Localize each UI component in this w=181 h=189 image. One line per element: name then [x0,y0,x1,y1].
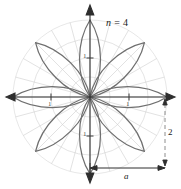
tick-label-y-negative: 1 [83,131,87,138]
polar-rose-figure: n = 4 1 1 1 1 a 2 [0,0,181,189]
figure-canvas [0,0,181,189]
x-axis-arrow-right [166,93,175,101]
dim-a-arrow-left [90,166,97,171]
y-axis-arrow-up [86,5,94,15]
tick-label-x-negative: 1 [48,101,52,108]
axes [6,5,175,183]
dim-2-arrow-down [163,160,167,166]
n-value: 4 [123,17,128,28]
dimension-label-2: 2 [168,128,173,137]
tick-label-y-positive: 1 [83,53,87,60]
n-equals-label: n = 4 [106,18,128,28]
tick-label-x-positive: 1 [126,101,130,108]
dim-a-arrow-right [158,166,165,171]
x-axis-arrow-left [6,93,15,101]
y-axis-arrow-down [86,173,94,183]
dimension-label-a: a [124,172,129,181]
